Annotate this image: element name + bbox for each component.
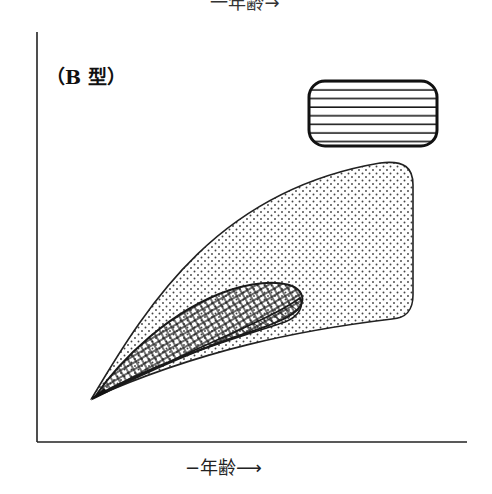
legend-horizontal-lines-box xyxy=(309,81,437,146)
x-axis-label: −年齢⟶ xyxy=(185,453,262,479)
panel-label: （B 型） xyxy=(46,62,126,89)
